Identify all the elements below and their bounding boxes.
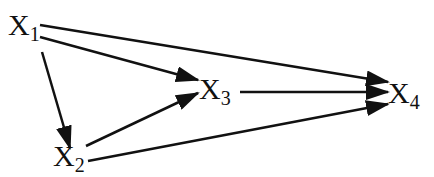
node-x2-subscript: 2 — [75, 154, 85, 176]
edge-x2-x4 — [88, 104, 388, 161]
node-x4-subscript: 4 — [410, 91, 420, 113]
node-x3-subscript: 3 — [221, 87, 231, 109]
node-x4-label: X — [388, 76, 410, 109]
node-x2: X2 — [53, 141, 85, 175]
edge-x1-x2 — [42, 52, 70, 148]
edge-x1-x3 — [40, 37, 198, 80]
node-x1: X1 — [8, 10, 40, 44]
node-x2-label: X — [53, 139, 75, 172]
edge-x2-x3 — [86, 93, 198, 146]
node-x3-label: X — [199, 72, 221, 105]
node-x4: X4 — [388, 78, 420, 112]
node-x3: X3 — [199, 74, 231, 108]
node-x1-label: X — [8, 8, 30, 41]
node-x1-subscript: 1 — [30, 23, 40, 45]
